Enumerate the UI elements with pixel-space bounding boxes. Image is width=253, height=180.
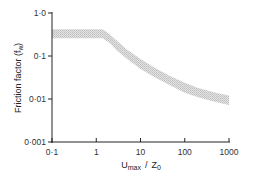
x-tick-label: 0·1	[46, 147, 59, 157]
friction-factor-chart: 0·0010·010·11·0 0·11101001000 Friction f…	[0, 0, 253, 180]
x-tick-label: 1000	[220, 147, 239, 157]
y-tick-label: 0·001	[24, 137, 46, 147]
x-tick-label: 100	[178, 147, 192, 157]
friction-factor-band	[52, 29, 229, 105]
x-ticks: 0·11101001000	[46, 138, 239, 157]
y-ticks: 0·0010·010·11·0	[24, 8, 52, 147]
x-tick-label: 10	[136, 147, 146, 157]
y-tick-label: 0·1	[34, 51, 47, 61]
y-tick-label: 0·01	[29, 94, 46, 104]
y-tick-label: 1·0	[34, 8, 47, 18]
x-tick-label: 1	[94, 147, 99, 157]
y-axis-title: Friction factor (fw)	[13, 43, 24, 113]
x-axis-title: Umax/Z0	[121, 160, 161, 171]
